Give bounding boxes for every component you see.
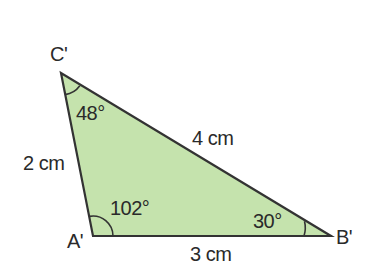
triangle-shape [61, 73, 331, 236]
triangle-figure [0, 0, 377, 276]
vertex-label-c: C' [50, 44, 67, 64]
triangle-diagram: C' A' B' 2 cm 4 cm 3 cm 48° 102° 30° [0, 0, 377, 276]
angle-label-a: 102° [110, 198, 149, 218]
vertex-label-a: A' [67, 231, 83, 251]
angle-label-c: 48° [76, 103, 105, 123]
vertex-label-b: B' [336, 227, 352, 247]
angle-label-b: 30° [253, 211, 282, 231]
side-label-cb: 4 cm [192, 128, 233, 148]
side-label-ac: 2 cm [23, 153, 64, 173]
side-label-ab: 3 cm [190, 244, 231, 264]
